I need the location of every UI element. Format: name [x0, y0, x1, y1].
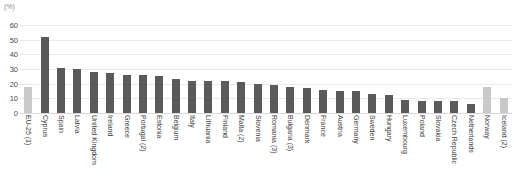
bar[interactable]	[434, 101, 442, 113]
bar[interactable]	[155, 76, 163, 113]
category-slot: Spain	[53, 115, 69, 184]
bar-slot[interactable]	[217, 25, 233, 113]
bar-slot[interactable]	[53, 25, 69, 113]
bar[interactable]	[139, 75, 147, 113]
bar-slot[interactable]	[200, 25, 216, 113]
bar-slot[interactable]	[364, 25, 380, 113]
bar[interactable]	[270, 85, 278, 113]
bar-slot[interactable]	[36, 25, 52, 113]
x-axis-tick-label: Spain	[57, 115, 64, 133]
x-axis-tick-label: Czech Republic	[451, 115, 458, 164]
category-slot: Bulgaria (3)	[282, 115, 298, 184]
bar-slot[interactable]	[282, 25, 298, 113]
bar[interactable]	[336, 91, 344, 113]
y-axis-tick-label: 30	[2, 65, 18, 74]
x-axis-tick-label: Sweden	[369, 115, 376, 140]
bar-slot[interactable]	[151, 25, 167, 113]
bar[interactable]	[352, 91, 360, 113]
x-axis-tick-label: Iceland (2)	[500, 115, 507, 148]
category-slot: EU-25 (1)	[20, 115, 36, 184]
bar[interactable]	[385, 95, 393, 113]
category-slot: Romania (3)	[266, 115, 282, 184]
category-slot: Sweden	[364, 115, 380, 184]
bar[interactable]	[57, 68, 65, 113]
bar[interactable]	[500, 98, 508, 113]
bar[interactable]	[401, 100, 409, 113]
bar[interactable]	[41, 37, 49, 113]
bar-slot[interactable]	[86, 25, 102, 113]
bar[interactable]	[483, 87, 491, 113]
bar-chart: (%) 0102030405060 EU-25 (1)CyprusSpainLa…	[0, 0, 514, 184]
y-axis-tick-label: 40	[2, 50, 18, 59]
x-axis-tick-label: Germany	[353, 115, 360, 144]
bar-slot[interactable]	[184, 25, 200, 113]
bar[interactable]	[106, 73, 114, 113]
bar-slot[interactable]	[233, 25, 249, 113]
bar[interactable]	[450, 101, 458, 113]
bar-slot[interactable]	[495, 25, 511, 113]
y-axis-tick-label: 60	[2, 21, 18, 30]
bar-slot[interactable]	[266, 25, 282, 113]
bar-slot[interactable]	[102, 25, 118, 113]
bar[interactable]	[188, 81, 196, 113]
bar-slot[interactable]	[118, 25, 134, 113]
category-slot: Finland	[217, 115, 233, 184]
bar[interactable]	[90, 72, 98, 113]
bar[interactable]	[303, 88, 311, 113]
category-slot: Hungary	[381, 115, 397, 184]
bar-slot[interactable]	[381, 25, 397, 113]
x-axis-tick-label: Bulgaria (3)	[287, 115, 294, 151]
bar[interactable]	[254, 84, 262, 113]
y-axis-tick-label: 20	[2, 79, 18, 88]
bar-slot[interactable]	[413, 25, 429, 113]
bar[interactable]	[172, 79, 180, 113]
category-slot: Portugal (2)	[135, 115, 151, 184]
bar-slot[interactable]	[20, 25, 36, 113]
x-axis-tick-label: Norway	[484, 115, 491, 139]
x-axis-tick-label: Italy	[189, 115, 196, 128]
x-axis-tick-label: Denmark	[303, 115, 310, 143]
x-axis-tick-label: France	[320, 115, 327, 137]
x-axis-tick-label: Ireland	[107, 115, 114, 136]
bar[interactable]	[123, 75, 131, 113]
y-axis-unit-label: (%)	[4, 3, 15, 10]
bar-slot[interactable]	[168, 25, 184, 113]
bar-slot[interactable]	[479, 25, 495, 113]
category-slot: Norway	[479, 115, 495, 184]
bar-slot[interactable]	[331, 25, 347, 113]
x-axis-tick-label: Belgium	[172, 115, 179, 140]
bar[interactable]	[237, 82, 245, 113]
bar-slot[interactable]	[135, 25, 151, 113]
x-axis-tick-label: Malta (2)	[238, 115, 245, 143]
bar-slot[interactable]	[69, 25, 85, 113]
bar[interactable]	[418, 101, 426, 113]
category-slot: Denmark	[299, 115, 315, 184]
x-axis-tick-label: Finland	[221, 115, 228, 138]
bar-slot[interactable]	[463, 25, 479, 113]
bar[interactable]	[286, 87, 294, 113]
bar[interactable]	[467, 104, 475, 113]
plot-area: 0102030405060	[20, 25, 512, 113]
bar-slot[interactable]	[299, 25, 315, 113]
bar-slot[interactable]	[430, 25, 446, 113]
x-axis-tick-label: Poland	[418, 115, 425, 137]
x-axis-tick-label: Estonia	[156, 115, 163, 138]
gridline	[20, 113, 512, 114]
bar[interactable]	[24, 87, 32, 113]
x-axis-tick-label: Austria	[336, 115, 343, 137]
category-slot: Slovakia	[430, 115, 446, 184]
x-axis-tick-label: Slovenia	[254, 115, 261, 142]
x-axis-category-labels: EU-25 (1)CyprusSpainLatviaUnited Kingdom…	[20, 115, 512, 184]
bar[interactable]	[319, 90, 327, 113]
bar-slot[interactable]	[397, 25, 413, 113]
bar-slot[interactable]	[249, 25, 265, 113]
bar-slot[interactable]	[446, 25, 462, 113]
category-slot: Greece	[118, 115, 134, 184]
bar[interactable]	[221, 81, 229, 113]
bar-slot[interactable]	[348, 25, 364, 113]
bar[interactable]	[204, 81, 212, 113]
x-axis-tick-label: Cyprus	[41, 115, 48, 137]
bar[interactable]	[73, 69, 81, 113]
bar[interactable]	[368, 94, 376, 113]
bar-slot[interactable]	[315, 25, 331, 113]
